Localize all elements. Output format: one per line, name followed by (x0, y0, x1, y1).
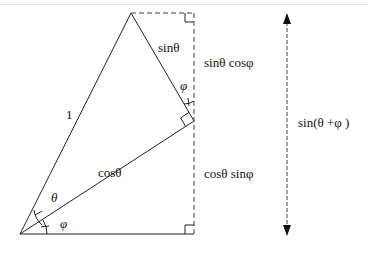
right-angle-marks (181, 13, 194, 234)
right-angle-bottom (185, 225, 194, 234)
label-cos-theta: cosθ (98, 165, 122, 180)
theta-tick (35, 211, 42, 215)
sin-theta-line (131, 13, 194, 121)
label-phi-angle-bottom: φ (60, 216, 67, 231)
label-hypotenuse: 1 (66, 107, 73, 122)
right-angle-mid (181, 112, 189, 126)
label-sin-theta-plus-phi: sin(θ +φ ) (298, 115, 349, 130)
label-sin-theta: sinθ (158, 40, 179, 55)
arrow-down-icon (283, 225, 291, 236)
phi-tick (41, 226, 49, 227)
label-phi-angle-top: φ (180, 78, 187, 93)
label-theta-angle: θ (51, 190, 58, 205)
right-angle-top (185, 13, 194, 22)
hypotenuse-line (20, 13, 131, 234)
trig-diagram: 1 sinθ cosθ sinθ cosφ cosθ sinφ sin(θ +φ… (0, 0, 368, 253)
phi-top-tick (188, 98, 189, 106)
label-cos-theta-sin-phi: cosθ sinφ (204, 166, 253, 181)
label-sin-theta-cos-phi: sinθ cosφ (204, 55, 253, 70)
arrow-up-icon (283, 13, 291, 24)
